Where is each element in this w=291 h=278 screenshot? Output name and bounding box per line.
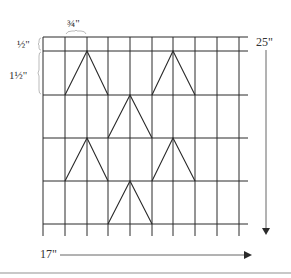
height-arrow (262, 50, 270, 235)
label-total-height: 25" (256, 35, 273, 49)
grid-vertical-lines (43, 37, 239, 236)
brace-row-height (38, 52, 41, 94)
label-top-row-height: ½" (17, 38, 30, 50)
quilt-grid-diagram: ¾" ½" 1½" 25" 17" (0, 0, 291, 278)
label-column-width: ¾" (67, 17, 80, 29)
arrow-right-icon (244, 251, 252, 259)
brace-top-row (38, 38, 41, 50)
arrow-down-icon (262, 228, 270, 235)
dimension-braces (38, 30, 86, 94)
label-row-height: 1½" (9, 69, 27, 81)
width-arrow (60, 251, 252, 259)
brace-column-width (66, 30, 86, 34)
label-total-width: 17" (40, 247, 57, 261)
